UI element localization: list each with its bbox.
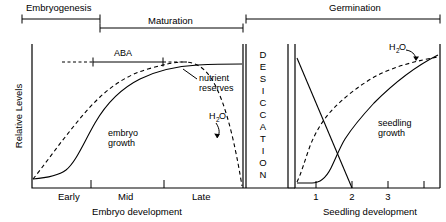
water-label-left: H <box>209 111 216 121</box>
desiccation-letter-3: I <box>262 85 265 96</box>
bracket-embryogenesis <box>22 15 100 24</box>
desiccation-letter-1: E <box>260 61 266 72</box>
water-label-right: H <box>389 42 396 52</box>
right-panel-frame <box>288 44 440 188</box>
bracket-germination <box>246 15 440 24</box>
arrowhead-water-right <box>413 56 419 61</box>
desiccation-letter-7: T <box>260 133 266 144</box>
leader-nutrient-reserves <box>183 69 197 79</box>
x-tick-label-1: 1 <box>313 191 318 202</box>
water-label-right-tail: O <box>399 42 406 52</box>
x-tick-label-mid: Mid <box>118 191 133 202</box>
aba-bar <box>62 58 187 67</box>
desiccation-letter-5: C <box>260 109 267 120</box>
desiccation-letter-6: A <box>260 121 267 132</box>
curve-label-seedling-growth-line2: growth <box>378 128 405 138</box>
desiccation-letter-8: I <box>262 145 265 156</box>
curve-seedling-growth-right <box>297 55 438 183</box>
right-panel-x-ticks <box>316 181 424 188</box>
desiccation-letter-4: C <box>260 97 267 108</box>
y-axis-label: Relative Levels <box>13 84 24 149</box>
x-tick-label-3: 3 <box>385 191 390 202</box>
right-x-axis-label: Seedling development <box>323 206 417 217</box>
curve-label-embryo-growth-line2: growth <box>108 138 135 148</box>
desiccation-letter-0: D <box>260 49 267 60</box>
curve-label-nutrient-reserves-line2: reserves <box>199 83 234 93</box>
left-panel-x-ticks <box>91 180 164 188</box>
water-annotation-left: H 2 O <box>209 111 226 138</box>
phase-label-germination: Germination <box>329 2 381 13</box>
figure-canvas: Embryogenesis Maturation Germination ABA <box>0 0 446 222</box>
water-label-left-tail: O <box>219 111 226 121</box>
aba-label: ABA <box>114 48 132 58</box>
desiccation-letter-10: N <box>260 169 267 180</box>
desiccation-letter-2: S <box>260 73 266 84</box>
arrowhead-water-left <box>214 134 220 138</box>
water-annotation-right: H 2 O <box>389 42 419 61</box>
curve-nutrient-reserves-right <box>297 58 352 188</box>
phase-label-embryogenesis: Embryogenesis <box>26 2 92 13</box>
x-tick-label-early: Early <box>58 191 80 202</box>
curve-water-dashed-right <box>297 57 438 182</box>
desiccation-letter-9: O <box>259 157 266 168</box>
phase-label-maturation: Maturation <box>148 15 193 26</box>
seed-development-figure: Embryogenesis Maturation Germination ABA <box>0 0 446 222</box>
desiccation-label: D E S I C C A T I O N <box>259 49 267 180</box>
curve-label-seedling-growth-line1: seedling <box>378 118 412 128</box>
x-tick-label-2: 2 <box>349 191 354 202</box>
x-tick-label-late: Late <box>192 191 211 202</box>
left-x-axis-label: Embryo development <box>92 206 182 217</box>
curve-label-embryo-growth-line1: embryo <box>108 128 138 138</box>
curve-label-nutrient-reserves-line1: nutrient <box>199 73 230 83</box>
